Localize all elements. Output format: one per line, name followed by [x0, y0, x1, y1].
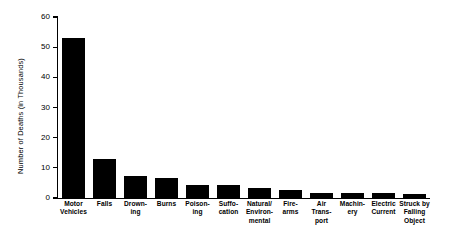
x-axis-tick-label: Struck byFallingObject — [396, 200, 433, 225]
x-axis-tick-labels: MotorVehiclesFallsDrown-ingBurnsPoison-i… — [58, 200, 430, 236]
bar — [124, 176, 148, 198]
bar — [93, 159, 117, 198]
bar — [186, 185, 210, 198]
y-axis-tick: 40 — [53, 77, 58, 78]
y-axis-title: Number of Deaths (in Thousands) — [14, 16, 28, 216]
y-axis-tick-label: 0 — [46, 194, 50, 202]
y-axis-tick-label: 50 — [41, 43, 50, 51]
bar — [403, 194, 427, 198]
bar — [217, 185, 241, 198]
y-axis-tick-label: 40 — [41, 73, 50, 81]
y-axis-tick: 0 — [53, 197, 58, 198]
y-axis-tick: 10 — [53, 167, 58, 168]
y-axis-tick: 50 — [53, 47, 58, 48]
bar — [372, 193, 396, 198]
y-axis-tick: 30 — [53, 107, 58, 108]
bar — [248, 188, 272, 198]
bar — [341, 193, 365, 198]
bar — [279, 190, 303, 198]
bar — [310, 193, 334, 198]
y-axis-tick-label: 30 — [41, 104, 50, 112]
y-axis-tick-label: 10 — [41, 164, 50, 172]
plot-area: 0102030405060 — [58, 17, 430, 198]
bar — [62, 38, 86, 198]
bar-chart-figure: Number of Deaths (in Thousands) 01020304… — [0, 0, 453, 236]
bar — [155, 178, 179, 198]
y-axis-tick: 60 — [53, 16, 58, 17]
y-axis-tick-label: 60 — [41, 13, 50, 21]
y-axis-tick: 20 — [53, 137, 58, 138]
y-axis-tick-label: 20 — [41, 134, 50, 142]
